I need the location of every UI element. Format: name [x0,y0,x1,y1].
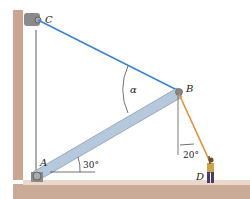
pin-a [33,172,41,180]
angle-arc-20 [180,144,194,145]
label-a: A [39,157,47,168]
label-c: C [45,14,53,25]
angle-arc-30 [78,157,80,172]
label-30-deg: 30° [83,160,99,170]
label-20-deg: 20° [183,150,199,160]
mechanics-diagram: C B A D α 30° 20° [0,0,250,199]
rod-ab [33,88,182,180]
label-d: D [195,171,204,182]
angle-arc-alpha [123,66,128,113]
cable-cb [38,20,179,91]
floor [13,184,250,199]
wall [13,10,23,180]
label-b: B [185,83,193,94]
label-alpha: α [130,84,137,95]
floor-surface [23,180,250,185]
person-d [207,156,214,183]
